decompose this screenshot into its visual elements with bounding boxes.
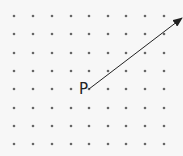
grid-dot [13, 125, 16, 128]
grid-dot [163, 143, 166, 146]
grid-dot [88, 125, 91, 128]
grid-dot [125, 15, 128, 18]
grid-dot [88, 15, 91, 18]
grid-dot [51, 70, 54, 73]
grid-dot [13, 143, 16, 146]
grid-dot [32, 52, 35, 55]
grid-dot [32, 107, 35, 110]
grid-dot [163, 70, 166, 73]
grid-dot [125, 70, 128, 73]
grid-dot [88, 52, 91, 55]
grid-dot [163, 125, 166, 128]
grid-dot [70, 107, 73, 110]
grid-dot [13, 52, 16, 55]
grid-dot [88, 70, 91, 73]
grid-dot [51, 107, 54, 110]
grid-dot [13, 33, 16, 36]
grid-dot [51, 125, 54, 128]
grid-dot [163, 15, 166, 18]
grid-dot [163, 33, 166, 36]
grid-dot [144, 143, 147, 146]
grid-dot [107, 52, 110, 55]
grid-dot [144, 88, 147, 91]
grid-dot [13, 88, 16, 91]
grid-dot [125, 88, 128, 91]
grid-dot [107, 15, 110, 18]
grid-dot [144, 15, 147, 18]
grid-dot [70, 33, 73, 36]
point-label-p: P [79, 80, 88, 98]
grid-dot [70, 15, 73, 18]
grid-dot [107, 107, 110, 110]
grid-dot [144, 70, 147, 73]
grid-dot [163, 52, 166, 55]
grid-dot [125, 33, 128, 36]
grid-dot [107, 70, 110, 73]
grid-dot [163, 88, 166, 91]
grid-dot [51, 33, 54, 36]
grid-dot [144, 125, 147, 128]
grid-dot [13, 107, 16, 110]
grid-dot [125, 143, 128, 146]
grid-dot [70, 70, 73, 73]
grid-dot [32, 88, 35, 91]
grid-dots [13, 15, 166, 146]
grid-dot [125, 107, 128, 110]
grid-dot [88, 107, 91, 110]
grid-dot [107, 33, 110, 36]
grid-dot [125, 125, 128, 128]
grid-dot [107, 125, 110, 128]
grid-dot [144, 33, 147, 36]
grid-dot [70, 125, 73, 128]
diagram-canvas: P [0, 0, 183, 156]
grid-dot [51, 88, 54, 91]
grid-dot [125, 52, 128, 55]
grid-dot [32, 33, 35, 36]
vector-arrow [89, 18, 182, 89]
grid-dot [70, 52, 73, 55]
grid-dot [51, 15, 54, 18]
grid-dot [13, 15, 16, 18]
dot-grid-diagram: P [0, 0, 183, 156]
grid-dot [88, 33, 91, 36]
grid-dot [70, 88, 73, 91]
grid-dot [32, 143, 35, 146]
grid-dot [32, 125, 35, 128]
grid-dot [70, 143, 73, 146]
grid-dot [163, 107, 166, 110]
grid-dot [51, 52, 54, 55]
grid-dot [32, 15, 35, 18]
grid-dot [13, 70, 16, 73]
grid-dot [32, 70, 35, 73]
grid-dot [144, 52, 147, 55]
grid-dot [51, 143, 54, 146]
grid-dot [107, 143, 110, 146]
grid-dot [107, 88, 110, 91]
grid-dot [88, 143, 91, 146]
grid-dot [144, 107, 147, 110]
